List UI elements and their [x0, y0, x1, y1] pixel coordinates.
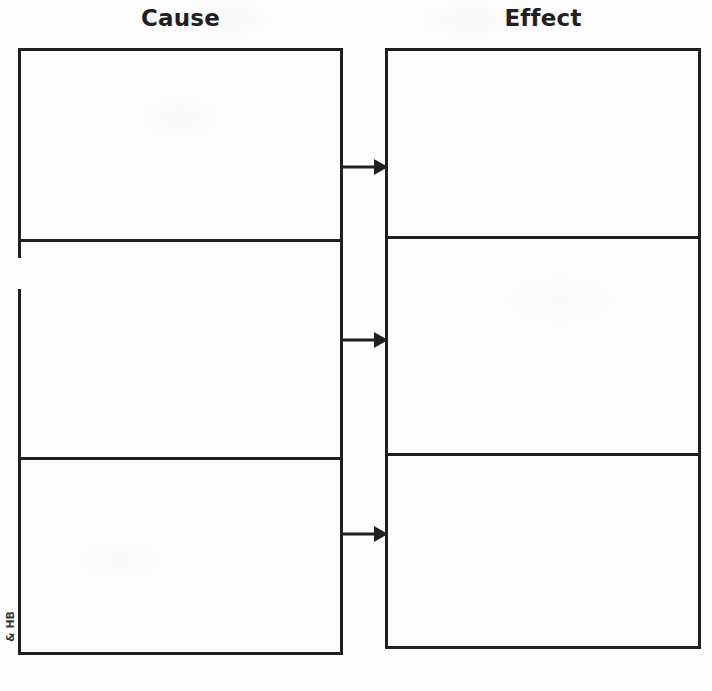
effect-column — [385, 48, 701, 649]
cause-cell-1[interactable] — [18, 48, 343, 242]
cause-cell-2[interactable] — [18, 239, 343, 460]
column-heading-cause: Cause — [18, 5, 343, 31]
arrow-icon — [340, 331, 388, 349]
effect-cell-3[interactable] — [385, 453, 701, 649]
arrow-icon — [340, 525, 388, 543]
left-rule-gap — [16, 258, 22, 289]
margin-credit-text: & HB — [4, 604, 17, 650]
effect-cell-2[interactable] — [385, 236, 701, 456]
cause-cell-3[interactable] — [18, 457, 343, 655]
cause-effect-worksheet: Cause Effect & HB — [0, 0, 712, 691]
arrow-icon — [340, 158, 388, 176]
cause-column — [18, 48, 343, 655]
effect-cell-1[interactable] — [385, 48, 701, 239]
column-heading-effect: Effect — [385, 5, 701, 31]
